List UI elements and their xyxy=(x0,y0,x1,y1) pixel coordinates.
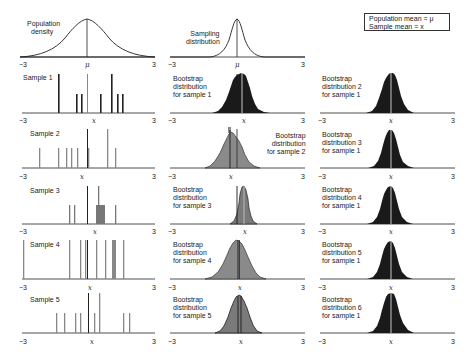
label-line: distribution 2 xyxy=(322,83,362,91)
label-line: for sample 1 xyxy=(322,147,362,155)
axis-xbar-label: x xyxy=(243,228,247,236)
label-line: distribution xyxy=(267,140,306,148)
label-line: Bootstrap xyxy=(322,186,362,194)
label-line: for sample 3 xyxy=(173,202,212,210)
axis-max-label: 3 xyxy=(301,284,305,292)
bootstrap-dist-3-label: Bootstrap distribution 3 for sample 1 xyxy=(322,131,362,155)
axis-max-label: 3 xyxy=(301,228,305,236)
population-label-line2: density xyxy=(27,28,60,36)
axis-min-label: −3 xyxy=(19,228,27,236)
axis-max-label: 3 xyxy=(451,117,455,125)
label-line: for sample 4 xyxy=(173,257,212,265)
axis-max-label: 3 xyxy=(451,173,455,181)
axis-max-label: 3 xyxy=(152,173,156,181)
population-label-line1: Population xyxy=(27,20,60,28)
axis-min-label: −3 xyxy=(318,228,326,236)
axis-max-label: 3 xyxy=(451,338,455,346)
axis-min-label: −3 xyxy=(19,338,27,346)
axis-max-label: 3 xyxy=(451,284,455,292)
label-line: distribution xyxy=(173,83,212,91)
bootstrap-diagram-figure xyxy=(0,0,472,359)
bootstrap-sample-5-label: Bootstrap distribution for sample 5 xyxy=(173,296,212,320)
label-line: Bootstrap xyxy=(173,75,212,83)
axis-max-label: 3 xyxy=(152,284,156,292)
axis-min-label: −3 xyxy=(168,173,176,181)
label-line: for sample 1 xyxy=(322,257,362,265)
axis-min-label: −3 xyxy=(19,117,27,125)
bootstrap-dist-4-label: Bootstrap distribution 4 for sample 1 xyxy=(322,186,362,210)
axis-max-label: 3 xyxy=(301,61,305,69)
axis-min-label: −3 xyxy=(318,173,326,181)
label-line: for sample 1 xyxy=(322,312,362,320)
legend-sample-mean: Sample mean = x xyxy=(369,23,449,31)
sample-2-label: Sample 2 xyxy=(30,130,60,138)
sample-3-label: Sample 3 xyxy=(30,187,60,195)
axis-min-label: −3 xyxy=(19,173,27,181)
axis-xbar-label: x xyxy=(88,284,92,292)
label-line: for sample 1 xyxy=(322,202,362,210)
bootstrap-sample-3-label: Bootstrap distribution for sample 3 xyxy=(173,186,212,210)
axis-xbar-label: x xyxy=(93,228,97,236)
axis-min-label: −3 xyxy=(168,117,176,125)
label-line: distribution 5 xyxy=(322,249,362,257)
legend-population-mean: Population mean = μ xyxy=(369,15,449,23)
axis-min-label: −3 xyxy=(318,117,326,125)
axis-max-label: 3 xyxy=(152,338,156,346)
label-line: distribution xyxy=(173,249,212,257)
axis-max-label: 3 xyxy=(152,228,156,236)
label-line: for sample 5 xyxy=(173,312,212,320)
axis-min-label: −3 xyxy=(19,61,27,69)
axis-min-label: −3 xyxy=(168,338,176,346)
label-line: Bootstrap xyxy=(322,75,362,83)
axis-xbar-label: x xyxy=(389,117,393,125)
axis-xbar-label: x xyxy=(92,117,96,125)
axis-min-label: −3 xyxy=(318,284,326,292)
bootstrap-sample-1-label: Bootstrap distribution for sample 1 xyxy=(173,75,212,99)
axis-max-label: 3 xyxy=(451,228,455,236)
axis-min-label: −3 xyxy=(168,284,176,292)
bootstrap-dist-6-label: Bootstrap distribution 6 for sample 1 xyxy=(322,296,362,320)
axis-min-label: −3 xyxy=(19,284,27,292)
axis-xbar-label: x xyxy=(389,228,393,236)
population-density-label: Population density xyxy=(27,20,60,36)
label-line: distribution xyxy=(173,194,212,202)
sample-5-label: Sample 5 xyxy=(30,296,60,304)
label-line: distribution 4 xyxy=(322,194,362,202)
sample-1-label: Sample 1 xyxy=(23,74,53,82)
sampling-label-line1: Sampling xyxy=(186,30,220,38)
axis-mu-label: μ xyxy=(85,61,90,69)
axis-xbar-label: x xyxy=(239,338,243,346)
label-line: distribution xyxy=(173,304,212,312)
label-line: for sample 2 xyxy=(267,148,306,156)
axis-mu-label: μ xyxy=(235,61,240,69)
axis-xbar-label: x xyxy=(242,117,246,125)
sample-4-label: Sample 4 xyxy=(30,241,60,249)
legend-box: Population mean = μ Sample mean = x xyxy=(364,13,450,31)
sampling-label-line2: distribution xyxy=(186,38,220,46)
bootstrap-sample-2-label: Bootstrap distribution for sample 2 xyxy=(267,132,306,156)
label-line: Bootstrap xyxy=(322,296,362,304)
axis-min-label: −3 xyxy=(168,228,176,236)
axis-xbar-label: x xyxy=(389,173,393,181)
axis-xbar-label: x xyxy=(80,173,84,181)
axis-max-label: 3 xyxy=(301,173,305,181)
axis-min-label: −3 xyxy=(318,338,326,346)
axis-max-label: 3 xyxy=(152,61,156,69)
label-line: distribution 6 xyxy=(322,304,362,312)
axis-xbar-label: x xyxy=(238,284,242,292)
label-line: Bootstrap xyxy=(173,296,212,304)
bootstrap-sample-4-label: Bootstrap distribution for sample 4 xyxy=(173,241,212,265)
label-line: distribution 3 xyxy=(322,139,362,147)
label-line: Bootstrap xyxy=(173,241,212,249)
axis-xbar-label: x xyxy=(389,284,393,292)
label-line: Bootstrap xyxy=(322,131,362,139)
axis-xbar-label: x xyxy=(229,173,233,181)
axis-max-label: 3 xyxy=(301,117,305,125)
sampling-distribution-label: Sampling distribution xyxy=(186,30,220,46)
label-line: for sample 1 xyxy=(173,91,212,99)
axis-min-label: −3 xyxy=(168,61,176,69)
label-line: Bootstrap xyxy=(322,241,362,249)
axis-max-label: 3 xyxy=(152,117,156,125)
bootstrap-dist-5-label: Bootstrap distribution 5 for sample 1 xyxy=(322,241,362,265)
axis-max-label: 3 xyxy=(301,338,305,346)
